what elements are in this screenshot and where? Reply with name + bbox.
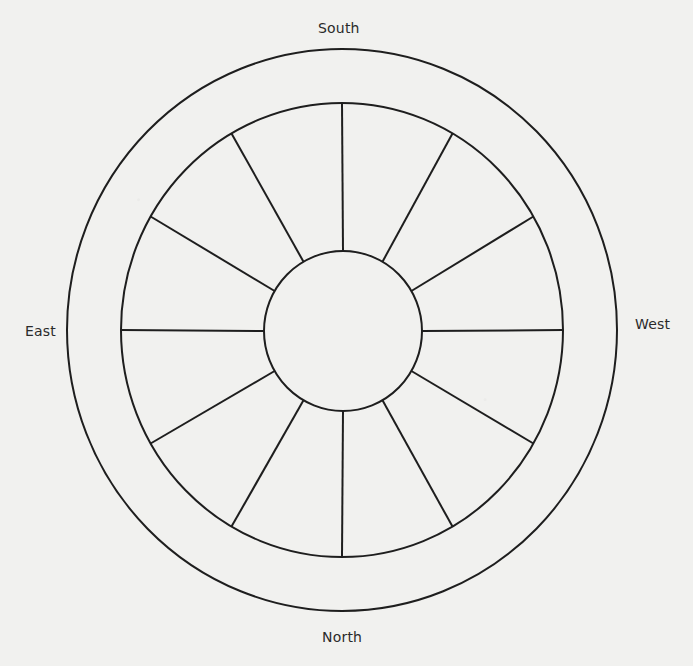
wheel-diagram [0, 0, 693, 666]
label-north: North [322, 629, 362, 645]
label-east: East [25, 323, 56, 339]
spokes-group [121, 103, 563, 557]
spoke-line [383, 133, 453, 261]
spoke-line [411, 217, 533, 292]
spoke-line [422, 330, 563, 331]
label-south: South [318, 20, 360, 36]
spoke-line [232, 400, 304, 526]
spoke-line [151, 371, 275, 444]
inner-hub [264, 251, 422, 411]
spoke-line [121, 330, 264, 331]
spoke-line [342, 103, 343, 251]
spoke-line [411, 371, 533, 444]
spoke-line [342, 411, 343, 557]
spoke-line [232, 133, 304, 261]
spoke-line [151, 217, 275, 292]
spoke-line [383, 400, 453, 526]
label-west: West [635, 316, 670, 332]
